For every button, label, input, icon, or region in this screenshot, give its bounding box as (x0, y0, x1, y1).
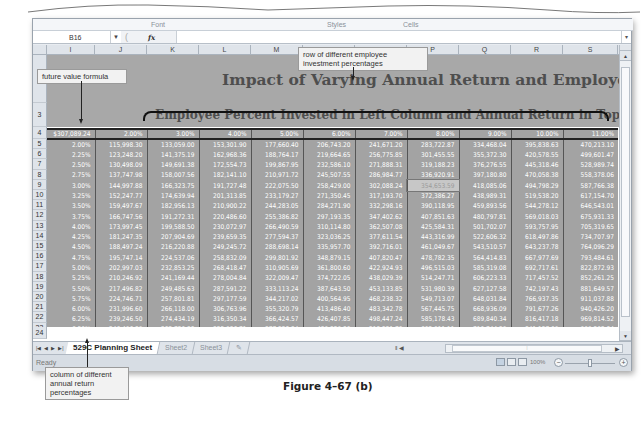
column-header-q[interactable]: Q (459, 45, 511, 54)
row-header[interactable]: 6 (33, 149, 47, 159)
future-value-cell[interactable]: 210,246.92 (95, 273, 147, 283)
scroll-right-icon[interactable]: ▶ (615, 345, 620, 352)
future-value-cell[interactable]: 310,905.69 (251, 263, 303, 273)
future-value-cell[interactable]: 585,178.43 (407, 314, 459, 324)
row-header[interactable]: 11 (33, 200, 47, 210)
future-value-cell[interactable]: 443,316.99 (407, 232, 459, 242)
future-value-cell[interactable]: 478,782.35 (407, 253, 459, 263)
future-value-cell[interactable]: 319,188.23 (407, 160, 459, 170)
future-value-cell[interactable]: 426,407.85 (303, 314, 355, 324)
future-value-cell[interactable]: 618,497.86 (511, 232, 563, 242)
future-value-cell[interactable]: 675,931.33 (563, 211, 618, 221)
corner-value-cell[interactable]: $307,089.24 (47, 129, 95, 139)
future-value-cell[interactable]: 543,510.57 (459, 242, 511, 252)
future-value-cell[interactable]: 302,088.24 (355, 180, 407, 190)
row-header[interactable]: 5 (33, 139, 47, 149)
future-value-cell[interactable]: 348,879.15 (303, 253, 355, 263)
future-value-cell[interactable]: 498,447.24 (355, 314, 407, 324)
future-value-cell[interactable]: 438,989.31 (459, 191, 511, 201)
row-header[interactable]: 9 (33, 180, 47, 190)
name-box[interactable]: B16 (33, 31, 111, 43)
horizontal-scrollbar[interactable]: ⁞ ▶ (445, 344, 623, 353)
future-value-cell[interactable]: 233,179.27 (251, 191, 303, 201)
employee-percent-cell[interactable]: 4.50% (47, 242, 95, 252)
future-value-cell[interactable]: 141,375.19 (147, 150, 199, 160)
future-value-cell[interactable]: 558,378.06 (563, 170, 618, 180)
future-value-cell[interactable]: 322,009.47 (251, 273, 303, 283)
insert-sheet-icon[interactable]: ✎ (228, 342, 250, 354)
future-value-cell[interactable]: 468,238.32 (355, 294, 407, 304)
future-value-cell[interactable]: 287,591.22 (199, 283, 251, 293)
future-value-cell[interactable]: 277,594.37 (251, 232, 303, 242)
future-value-cell[interactable]: 420,578.55 (511, 150, 563, 160)
future-value-cell[interactable]: 567,445.75 (407, 304, 459, 314)
row-header[interactable]: 14 (33, 231, 47, 241)
future-value-cell[interactable]: 400,564.95 (303, 294, 355, 304)
future-value-cell[interactable]: 301,455.55 (407, 150, 459, 160)
future-value-cell[interactable]: 366,424.57 (251, 314, 303, 324)
future-value-cell[interactable]: 199,588.50 (147, 222, 199, 232)
future-value-cell[interactable]: 166,747.56 (95, 211, 147, 221)
future-value-cell[interactable]: 239,246.50 (95, 314, 147, 324)
future-value-cell[interactable]: 377,611.54 (355, 232, 407, 242)
row-header[interactable]: 10 (33, 190, 47, 200)
future-value-cell[interactable]: 480,797.81 (459, 211, 511, 221)
row-header[interactable]: 22 (33, 312, 47, 322)
future-value-cell[interactable]: 793,484.61 (563, 253, 618, 263)
future-value-cell[interactable]: 241,169.44 (147, 273, 199, 283)
future-value-cell[interactable]: 258,832.09 (199, 253, 251, 263)
column-header-l[interactable]: L (199, 45, 251, 54)
future-value-cell[interactable]: 499,601.47 (563, 150, 618, 160)
future-value-cell[interactable]: 123,248.20 (95, 150, 147, 160)
future-value-cell[interactable]: 232,853.25 (147, 263, 199, 273)
future-value-cell[interactable]: 438,029.39 (355, 273, 407, 283)
tab-sheet3[interactable]: Sheet3 (193, 342, 231, 354)
future-value-cell[interactable]: 249,485.63 (147, 283, 199, 293)
future-value-cell[interactable]: 593,757.95 (511, 222, 563, 232)
future-value-cell[interactable]: 162,968.36 (199, 150, 251, 160)
future-value-cell[interactable]: 606,223.33 (459, 273, 511, 283)
future-value-cell[interactable]: 195,747.14 (95, 253, 147, 263)
future-value-cell[interactable]: 407,851.63 (407, 211, 459, 221)
formula-input[interactable] (177, 31, 621, 43)
future-value-cell[interactable]: 531,980.39 (407, 283, 459, 293)
future-value-cell[interactable]: 224,537.06 (147, 253, 199, 263)
future-value-cell[interactable]: 501,702.07 (459, 222, 511, 232)
future-value-cell[interactable]: 387,643.50 (303, 283, 355, 293)
expand-formula-bar-icon[interactable]: ▾ (621, 31, 631, 43)
employee-percent-cell[interactable]: 4.75% (47, 253, 95, 263)
annual-return-header-cell[interactable]: 8.00% (407, 129, 459, 139)
future-value-cell[interactable]: 587,766.38 (563, 180, 618, 190)
future-value-cell[interactable]: 969,814.52 (563, 314, 618, 324)
future-value-cell[interactable]: 224,746.71 (95, 294, 147, 304)
row-header-4[interactable]: 4 (33, 127, 47, 139)
future-value-cell[interactable]: 201,313.85 (199, 191, 251, 201)
future-value-cell[interactable]: 496,515.03 (407, 263, 459, 273)
employee-percent-cell[interactable]: 2.50% (47, 160, 95, 170)
tab-sheet2[interactable]: Sheet2 (158, 342, 196, 354)
future-value-cell[interactable]: 258,429.00 (303, 180, 355, 190)
annual-return-header-cell[interactable]: 11.00% (563, 129, 618, 139)
future-value-cell[interactable]: 310,114.80 (303, 222, 355, 232)
future-value-cell[interactable]: 182,141.10 (199, 170, 251, 180)
future-value-cell[interactable]: 230,072.97 (199, 222, 251, 232)
future-value-cell[interactable]: 667,977.69 (511, 253, 563, 263)
future-value-cell[interactable]: 172,554.73 (199, 160, 251, 170)
future-value-cell[interactable]: 395,838.63 (511, 139, 563, 149)
employee-percent-cell[interactable]: 3.75% (47, 211, 95, 221)
row-header[interactable]: 16 (33, 251, 47, 261)
future-value-cell[interactable]: 336,920.91 (407, 170, 459, 180)
future-value-cell[interactable]: 791,677.26 (511, 304, 563, 314)
horizontal-scroll-thumb[interactable]: ⁞ (452, 345, 602, 352)
future-value-cell[interactable]: 278,004.84 (199, 273, 251, 283)
annual-return-header-cell[interactable]: 6.00% (303, 129, 355, 139)
future-value-cell[interactable]: 816,417.18 (511, 314, 563, 324)
future-value-cell[interactable]: 130,498.09 (95, 160, 147, 170)
future-value-cell[interactable]: 335,957.70 (303, 242, 355, 252)
select-all-corner[interactable] (33, 45, 47, 54)
insert-function-icon[interactable]: fx (148, 33, 155, 42)
future-value-cell[interactable]: 494,798.29 (511, 180, 563, 190)
future-value-cell[interactable]: 288,698.14 (251, 242, 303, 252)
annual-return-header-cell[interactable]: 7.00% (355, 129, 407, 139)
future-value-cell[interactable]: 217,496.82 (95, 283, 147, 293)
